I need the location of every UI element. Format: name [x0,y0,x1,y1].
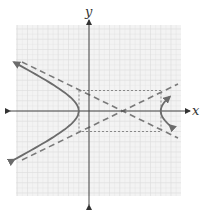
x-axis-label: x [192,103,200,118]
y-axis-label: y [84,4,93,19]
hyperbola-graph: y x [0,0,206,210]
